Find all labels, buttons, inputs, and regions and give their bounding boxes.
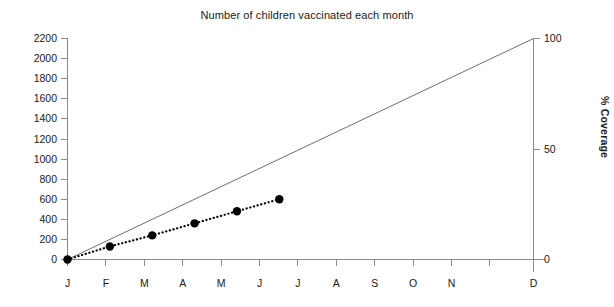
x-tick-label-aug: A	[333, 277, 340, 289]
x-tick-label-jan: J	[65, 277, 70, 289]
right-tick-label-50: 50	[544, 143, 556, 155]
x-tick-label-apr: A	[179, 277, 186, 289]
data-point-marker	[190, 219, 198, 227]
y-tick-label-0: 0	[51, 253, 57, 265]
data-point-marker	[275, 195, 283, 203]
x-tick-label-feb: F	[103, 277, 109, 289]
x-tick-label-nov: N	[448, 277, 456, 289]
chart-container: Number of children vaccinated each month…	[0, 0, 614, 307]
left-axis-ticks	[61, 39, 68, 260]
chart-plot-area: 2200 2000 1800 1600 1400 1200 1000 800 6…	[0, 0, 614, 307]
y-tick-label-400: 400	[39, 213, 57, 225]
x-tick-label-mar: M	[140, 277, 149, 289]
y-tick-label-2000: 2000	[34, 52, 58, 64]
right-tick-label-0: 0	[544, 253, 550, 265]
right-tick-label-100: 100	[544, 32, 562, 44]
data-point-marker	[106, 242, 114, 250]
y-tick-label-600: 600	[39, 193, 57, 205]
y-tick-label-1400: 1400	[34, 112, 58, 124]
x-tick-label-dec: D	[530, 277, 538, 289]
y-tick-label-800: 800	[39, 173, 57, 185]
y-tick-label-1800: 1800	[34, 72, 58, 84]
right-axis-ticks	[534, 39, 541, 260]
y-tick-label-1600: 1600	[34, 92, 58, 104]
x-tick-label-may: M	[217, 277, 226, 289]
x-axis-ticks	[68, 260, 534, 273]
x-tick-label-jul: J	[295, 277, 300, 289]
data-point-marker	[233, 207, 241, 215]
data-point-marker	[148, 231, 156, 239]
y-tick-label-2200: 2200	[34, 32, 58, 44]
y-tick-label-1200: 1200	[34, 133, 58, 145]
x-tick-label-jun: J	[257, 277, 262, 289]
y-tick-label-1000: 1000	[34, 153, 58, 165]
target-coverage-line	[68, 39, 534, 260]
x-tick-label-oct: O	[409, 277, 417, 289]
data-point-marker	[63, 255, 71, 263]
x-tick-label-sep: S	[371, 277, 378, 289]
right-axis-title: % Coverage	[599, 96, 611, 158]
y-tick-label-200: 200	[39, 233, 57, 245]
children-vaccinated-line	[68, 199, 280, 259]
